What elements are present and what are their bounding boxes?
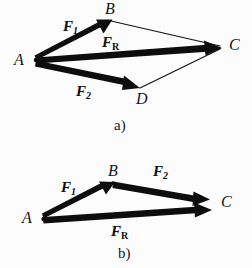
force-label-f1-panel-b: F1: [61, 180, 76, 195]
vertex-label-a-panel-b: A: [22, 210, 32, 226]
force-label-f2-panel-b: F2: [153, 164, 168, 179]
force-label-f2-panel-a-base: F: [76, 83, 86, 99]
force-label-f1-panel-a: F1: [63, 19, 78, 34]
vertex-label-c-panel-b: C: [221, 194, 232, 210]
force-label-f2-panel-a: F2: [76, 84, 91, 99]
vertex-label-c-panel-a: C: [229, 37, 240, 53]
panel-caption-b: b): [118, 246, 131, 261]
force-label-f1-panel-b-sub: 1: [71, 186, 76, 197]
vertex-label-b-panel-a: B: [105, 1, 115, 17]
force-label-f1-panel-a-sub: 1: [73, 25, 78, 36]
force-label-fr-panel-a-sub: R: [112, 41, 119, 52]
vertex-dot-b-panel-b: [111, 181, 115, 185]
panel-caption-a: a): [114, 118, 126, 133]
vertex-label-b-panel-b: B: [108, 163, 118, 179]
vertex-dot-a-panel-a: [34, 58, 38, 62]
force-label-f1-panel-a-base: F: [63, 18, 73, 34]
force-label-f1-panel-b-base: F: [61, 179, 71, 195]
vector-arrow-f2-panel-b: [113, 182, 211, 207]
force-label-fr-panel-b-sub: R: [121, 230, 128, 241]
force-label-fr-panel-a-base: F: [102, 34, 112, 50]
force-label-fr-panel-a: FR: [102, 35, 119, 50]
thin-line-b-to-c: [111, 21, 220, 46]
force-label-f2-panel-b-base: F: [153, 163, 163, 179]
vertex-label-a-panel-a: A: [14, 52, 24, 68]
vertex-dot-a-panel-b: [41, 217, 45, 221]
force-label-f2-panel-a-sub: 2: [86, 90, 91, 101]
force-label-fr-panel-b-base: F: [111, 223, 121, 239]
vector-addition-figure: A B C D F1 FR F2 a) A B C F1 F2 FR b): [0, 0, 252, 268]
force-label-f2-panel-b-sub: 2: [163, 170, 168, 181]
force-label-fr-panel-b: FR: [111, 224, 128, 239]
vertex-label-d-panel-a: D: [136, 91, 148, 107]
